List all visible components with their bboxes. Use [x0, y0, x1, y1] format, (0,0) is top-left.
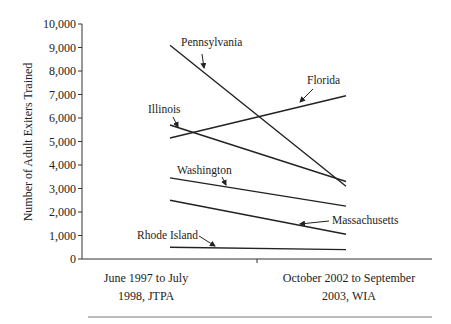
x-category-2: October 2002 to September 2003, WIA — [283, 271, 415, 303]
y-tick: 10,000 — [43, 17, 82, 31]
y-axis-label: Number of Adult Exiters Trained — [21, 63, 35, 222]
y-tick: 6,000 — [49, 111, 82, 125]
y-tick: 3,000 — [49, 182, 82, 196]
y-tick: 0 — [70, 252, 82, 266]
series-label-text: Pennsylvania — [181, 36, 242, 49]
arrow-icon — [300, 89, 313, 102]
y-tick-label: 7,000 — [49, 88, 76, 102]
y-ticks: 0 1,000 2,000 3,000 4,000 5,000 6,000 7,… — [43, 17, 82, 266]
x-category-label: 1998, JTPA — [118, 289, 175, 303]
series-label-text: Massachusetts — [332, 214, 399, 226]
y-tick: 7,000 — [49, 88, 82, 102]
y-tick: 2,000 — [49, 205, 82, 219]
x-category-1: June 1997 to July 1998, JTPA — [104, 271, 188, 303]
series-label-text: Florida — [307, 74, 340, 86]
series-label-washington: Washington — [177, 164, 232, 185]
arrow-icon — [222, 177, 226, 185]
series-label-text: Illinois — [148, 103, 181, 115]
x-category-label: June 1997 to July — [104, 271, 188, 285]
y-tick-label: 9,000 — [49, 41, 76, 55]
y-tick-label: 1,000 — [49, 229, 76, 243]
y-tick: 8,000 — [49, 64, 82, 78]
y-tick-label: 4,000 — [49, 158, 76, 172]
series-label-rhode-island: Rhode Island — [137, 229, 215, 246]
series-line-rhode-island — [170, 247, 346, 249]
y-tick-label: 3,000 — [49, 182, 76, 196]
arrow-icon — [202, 54, 204, 68]
y-tick-label: 2,000 — [49, 205, 76, 219]
y-tick-label: 5,000 — [49, 135, 76, 149]
series-label-pennsylvania: Pennsylvania — [181, 36, 242, 68]
y-tick-label: 0 — [70, 252, 76, 266]
series-label-massachusetts: Massachusetts — [300, 214, 399, 226]
arrow-icon — [199, 236, 215, 246]
series-label-florida: Florida — [300, 74, 340, 102]
series-label-illinois: Illinois — [148, 103, 181, 127]
x-category-label: October 2002 to September — [283, 271, 415, 285]
series-line-florida — [170, 96, 346, 138]
arrow-icon — [300, 221, 329, 224]
y-tick: 9,000 — [49, 41, 82, 55]
y-tick: 4,000 — [49, 158, 82, 172]
series-label-text: Rhode Island — [137, 229, 198, 241]
y-tick-label: 10,000 — [43, 17, 76, 31]
x-category-label: 2003, WIA — [322, 289, 376, 303]
series-line-washington — [170, 178, 346, 206]
y-tick: 1,000 — [49, 229, 82, 243]
y-tick-label: 6,000 — [49, 111, 76, 125]
line-chart: Number of Adult Exiters Trained 0 1,000 … — [0, 0, 451, 324]
y-tick-label: 8,000 — [49, 64, 76, 78]
series-label-text: Washington — [177, 164, 232, 177]
y-tick: 5,000 — [49, 135, 82, 149]
